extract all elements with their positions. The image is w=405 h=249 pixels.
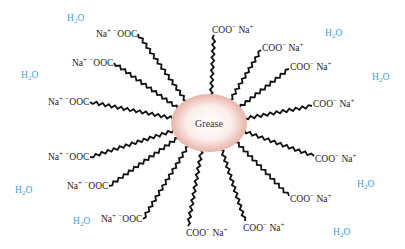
hydrocarbon-tail (90, 129, 174, 157)
sodium-carboxylate-label: Na+ −OOC (48, 151, 89, 163)
micelle-diagram: Grease Na+ −OOCNa+ −OOCNa+ −OOCNa+ −OOCN… (0, 0, 405, 249)
water-molecule-label: H2O (372, 73, 389, 84)
carboxylate-sodium-label: COO− Na+ (186, 227, 227, 239)
hydrocarbon-tail (220, 149, 245, 221)
hydrocarbon-tail (210, 35, 216, 96)
sodium-carboxylate-label: Na+ −OOC (48, 96, 89, 108)
hydrocarbon-tail (240, 69, 289, 109)
carboxylate-sodium-label: COO− Na+ (290, 61, 331, 73)
water-molecule-label: H2O (325, 29, 342, 40)
hydrocarbon-tail (244, 130, 314, 156)
carboxylate-sodium-label: COO− Na+ (315, 153, 356, 165)
carboxylate-sodium-label: COO− Na+ (313, 98, 354, 110)
sodium-carboxylate-label: Na+ −OOC (101, 213, 142, 225)
sodium-carboxylate-label: Na+ −OOC (96, 28, 137, 40)
grease-label: Grease (184, 118, 234, 129)
hydrocarbon-tail (90, 102, 173, 120)
hydrocarbon-tail (138, 34, 188, 101)
carboxylate-sodium-label: COO− Na+ (290, 193, 331, 205)
sodium-carboxylate-label: Na+ −OOC (72, 57, 113, 69)
water-molecule-label: H2O (73, 217, 90, 228)
carboxylate-sodium-label: COO− Na+ (262, 42, 303, 54)
water-molecule-label: H2O (67, 14, 84, 25)
carboxylate-sodium-label: COO− Na+ (212, 24, 253, 36)
hydrocarbon-tail (244, 105, 312, 119)
carboxylate-sodium-label: COO− Na+ (243, 222, 284, 234)
sodium-carboxylate-label: Na+ −OOC (67, 180, 108, 192)
hydrocarbon-tail (114, 63, 178, 110)
hydrocarbon-tail (188, 149, 203, 226)
water-molecule-label: H2O (333, 228, 350, 239)
water-molecule-label: H2O (15, 186, 32, 197)
hydrocarbon-tail (235, 142, 289, 196)
water-molecule-label: H2O (357, 180, 374, 191)
water-molecule-label: H2O (21, 71, 38, 82)
